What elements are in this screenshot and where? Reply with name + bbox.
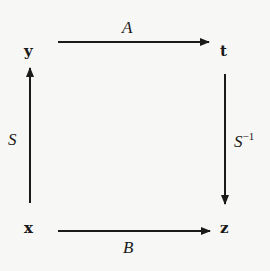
node-x: x bbox=[24, 219, 33, 237]
label-B: B bbox=[123, 238, 133, 258]
node-y: y bbox=[24, 42, 33, 60]
label-S: S bbox=[8, 130, 17, 150]
label-A: A bbox=[122, 18, 132, 38]
node-z: z bbox=[220, 219, 229, 237]
diagram-arrows bbox=[0, 0, 270, 271]
node-t: t bbox=[220, 42, 227, 60]
label-S-inverse: S−1 bbox=[234, 130, 254, 152]
